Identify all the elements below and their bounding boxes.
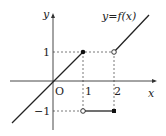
closed-point-1-1 — [81, 50, 86, 55]
y-axis-arrow-icon — [51, 13, 55, 18]
function-graph: y=f(x) y x O 1 2 1 −1 — [0, 0, 166, 136]
closed-point-2-minus1 — [112, 109, 116, 113]
open-point-1-minus1 — [81, 109, 86, 114]
x-axis-arrow-icon — [152, 79, 157, 83]
x-tick-2: 2 — [114, 85, 121, 98]
open-point-2-1 — [112, 50, 117, 55]
function-label: y=f(x) — [101, 10, 136, 23]
y-tick-1: 1 — [43, 46, 50, 59]
x-tick-1: 1 — [85, 85, 92, 98]
graph-lines — [12, 15, 149, 123]
origin-label: O — [55, 85, 64, 98]
x-axis-label: x — [148, 87, 155, 100]
y-axis-label: y — [42, 8, 50, 21]
y-tick-minus1: −1 — [34, 105, 50, 118]
guide-lines — [53, 52, 114, 111]
